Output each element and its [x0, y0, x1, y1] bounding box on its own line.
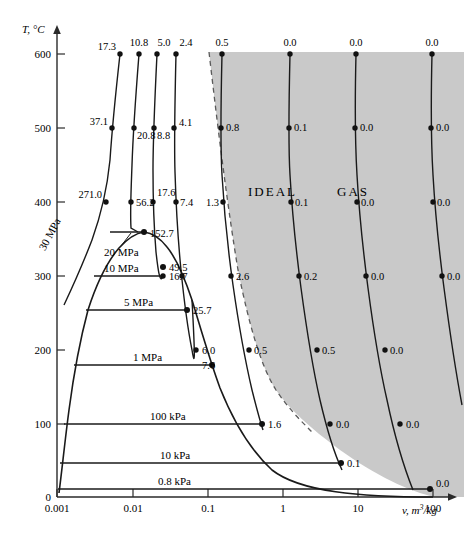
x-tick-label: 0.1	[201, 502, 215, 514]
point-label: 0.0	[437, 197, 450, 208]
tv-diagram-svg: 600 500 400 300 200 100 0 0.001 0.01 0.1…	[0, 0, 464, 543]
x-axis-tick-labels: 0.001 0.01 0.1 1 10 100	[45, 502, 442, 514]
chart-canvas: 600 500 400 300 200 100 0 0.001 0.01 0.1…	[0, 0, 464, 543]
data-point	[218, 125, 223, 130]
isobar-label-1mpa: 1 MPa	[133, 351, 162, 363]
isobar-label-100kpa: 100 kPa	[150, 410, 186, 422]
isobar-label-10kpa: 10 kPa	[160, 449, 190, 461]
data-point	[363, 273, 368, 278]
data-point	[128, 199, 133, 204]
point-label: 4.1	[179, 117, 192, 128]
data-point	[193, 347, 198, 352]
data-point	[136, 51, 141, 56]
data-point	[173, 199, 178, 204]
point-label: 7.4	[180, 197, 194, 208]
data-point	[160, 264, 166, 270]
point-label: 0.0	[349, 37, 362, 48]
point-label: 7.6	[202, 360, 215, 371]
isobar-curve-10mpa	[153, 54, 163, 279]
point-label: 1.3	[206, 197, 219, 208]
ideal-label: IDEAL	[248, 184, 297, 199]
isobar-label-30mpa: 30 MPa	[36, 216, 63, 252]
point-label: 20.8	[137, 130, 155, 141]
point-label: 8.8	[157, 130, 170, 141]
data-point	[117, 51, 122, 56]
data-point	[154, 51, 159, 56]
data-point	[427, 486, 433, 492]
point-label: 0.0	[436, 478, 449, 489]
isobar-label-5mpa: 5 MPa	[124, 296, 153, 308]
data-point	[338, 460, 344, 466]
point-label: 0.0	[360, 122, 373, 133]
data-point	[429, 51, 434, 56]
isobar-labels: 30 MPa 20 MPa 10 MPa 5 MPa 1 MPa 100 kPa…	[36, 216, 191, 487]
data-point	[220, 199, 225, 204]
data-point	[397, 421, 402, 426]
y-tick-label: 200	[35, 344, 52, 356]
point-label: 10.8	[130, 37, 148, 48]
isobar-label-20mpa: 20 MPa	[104, 246, 139, 258]
isobar-label-0p8kpa: 0.8 kPa	[158, 475, 191, 487]
point-label: 0.5	[322, 345, 335, 356]
data-point	[259, 421, 265, 427]
data-point	[286, 125, 291, 130]
point-label: 0.0	[283, 37, 296, 48]
point-label: 25.7	[193, 305, 211, 316]
data-point	[219, 51, 224, 56]
point-label: 0.0	[447, 271, 460, 282]
data-point	[109, 125, 114, 130]
y-axis-title: T, °C	[22, 23, 45, 35]
x-tick-label: 0.01	[123, 502, 142, 514]
data-point	[327, 421, 332, 426]
point-label: 0.5	[215, 37, 228, 48]
point-label: 2.6	[236, 271, 249, 282]
data-point	[287, 51, 292, 56]
point-label: 56.2	[136, 197, 154, 208]
data-point	[228, 273, 233, 278]
point-label: 37.1	[90, 116, 108, 127]
point-label: 152.7	[150, 228, 174, 239]
data-point	[354, 199, 359, 204]
data-point	[430, 199, 435, 204]
point-label: 17.6	[157, 187, 175, 198]
point-label: 0.0	[436, 122, 449, 133]
x-tick-label: 1	[280, 502, 286, 514]
point-label: 0.1	[294, 122, 307, 133]
x-axis-title: v, m3/kg	[402, 503, 437, 517]
data-point	[160, 273, 165, 278]
point-label: 0.0	[371, 271, 384, 282]
point-label: 0.0	[336, 419, 349, 430]
gas-label: GAS	[337, 184, 369, 199]
data-point	[171, 125, 176, 130]
data-point	[288, 199, 293, 204]
point-label: 0.1	[347, 458, 360, 469]
y-tick-label: 400	[35, 196, 52, 208]
data-point	[173, 51, 178, 56]
data-point	[314, 347, 319, 352]
data-point	[428, 125, 433, 130]
point-label: 5.0	[157, 37, 170, 48]
data-point	[353, 51, 358, 56]
x-tick-label: 10	[353, 502, 365, 514]
data-point	[131, 125, 136, 130]
y-tick-label: 100	[35, 418, 52, 430]
point-label: 17.3	[98, 41, 116, 52]
y-axis-tick-labels: 600 500 400 300 200 100 0	[35, 48, 52, 503]
isobar-label-10mpa: 10 MPa	[104, 262, 139, 274]
y-tick-label: 500	[35, 122, 52, 134]
data-point	[382, 347, 387, 352]
point-label: 0.8	[226, 122, 239, 133]
point-label: 1.6	[268, 419, 281, 430]
data-point	[439, 273, 444, 278]
y-axis-ticks	[57, 54, 65, 424]
point-label: 16.7	[169, 271, 187, 282]
point-label: 0.0	[406, 419, 419, 430]
point-label: 0.2	[304, 271, 317, 282]
y-tick-label: 300	[35, 270, 52, 282]
point-label: 2.4	[179, 37, 193, 48]
data-point	[103, 199, 108, 204]
data-point	[184, 307, 190, 313]
data-point	[141, 229, 147, 235]
point-label: 0.0	[390, 345, 403, 356]
data-point	[296, 273, 301, 278]
